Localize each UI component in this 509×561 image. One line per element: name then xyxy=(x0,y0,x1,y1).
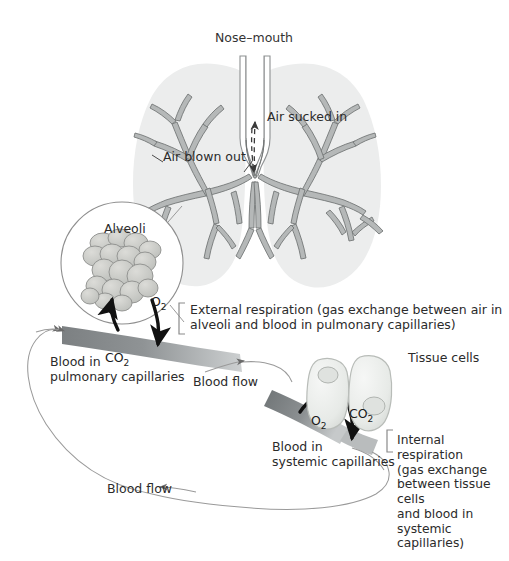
co2-subscript: 2 xyxy=(123,357,129,367)
trachea-lumen xyxy=(246,56,264,138)
label-blood-in-systemic-line2: systemic capillaries xyxy=(272,455,395,470)
respiration-diagram: Nose–mouth Air sucked in Air blown out A… xyxy=(0,0,509,561)
co2-text: CO xyxy=(105,350,124,365)
page-title: Nose–mouth xyxy=(215,31,293,46)
o2-subscript: 2 xyxy=(161,301,167,311)
o2-text-systemic: O xyxy=(311,413,321,428)
label-blood-in-pulmonary-line1: Blood in xyxy=(50,355,101,370)
label-tissue-cells: Tissue cells xyxy=(408,351,479,366)
magnifier-leader-lower xyxy=(170,305,184,322)
co2-subscript-tissue: 2 xyxy=(367,413,373,423)
label-external-respiration-line1: External respiration (gas exchange betwe… xyxy=(190,303,502,318)
label-air-blown-out: Air blown out xyxy=(163,150,246,165)
o2-text: O xyxy=(151,294,161,309)
label-external-respiration-line2: alveoli and blood in pulmonary capillari… xyxy=(190,318,456,333)
label-blood-flow-upper: Blood flow xyxy=(193,375,258,390)
label-alveoli-o2: O2 xyxy=(135,280,166,327)
label-alveoli: Alveoli xyxy=(104,222,146,237)
nucleus-left xyxy=(318,367,338,383)
co2-text-tissue: CO xyxy=(349,406,368,421)
label-blood-in-pulmonary-line2: pulmonary capillaries xyxy=(50,370,185,385)
label-blood-in-systemic-line1: Blood in xyxy=(272,440,323,455)
label-internal-respiration: Internal respiration (gas exchange betwe… xyxy=(397,433,505,551)
label-air-sucked-in: Air sucked in xyxy=(267,110,347,125)
label-tissue-co2: CO2 xyxy=(333,392,373,439)
external-respiration-bracket xyxy=(179,303,185,334)
label-blood-flow-lower: Blood flow xyxy=(107,482,172,497)
air-sucked-in-arrow xyxy=(254,122,255,170)
internal-respiration-bracket xyxy=(387,430,393,452)
o2-subscript-systemic: 2 xyxy=(321,420,327,430)
